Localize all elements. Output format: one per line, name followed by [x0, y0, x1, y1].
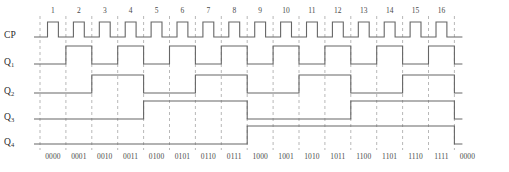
state-label: 1001: [278, 152, 293, 161]
clock-number: 6: [181, 6, 185, 15]
timing-diagram: CPQ1Q2Q3Q4123456789101112131415160000000…: [0, 0, 509, 172]
clock-number: 10: [282, 6, 290, 15]
clock-number: 9: [258, 6, 262, 15]
state-label: 0000: [45, 152, 60, 161]
waveform-q1: [34, 46, 462, 64]
state-label: 1101: [382, 152, 397, 161]
clock-number: 13: [360, 6, 368, 15]
signal-label-q2: Q2: [4, 86, 15, 96]
clock-number: 14: [386, 6, 394, 15]
clock-number: 5: [155, 6, 159, 15]
state-label: 0111: [227, 152, 242, 161]
signal-label-subscript: 2: [11, 90, 14, 97]
state-label: 0101: [175, 152, 190, 161]
clock-number: 12: [334, 6, 342, 15]
state-label: 1100: [356, 152, 371, 161]
clock-number: 11: [308, 6, 315, 15]
signal-label-cp: CP: [4, 30, 16, 40]
waveform-q4: [34, 126, 462, 144]
waveform-cp: [34, 22, 462, 37]
signal-label-subscript: 1: [11, 61, 14, 68]
state-label: 1111: [434, 152, 449, 161]
clock-number: 8: [232, 6, 236, 15]
state-label: 0001: [71, 152, 86, 161]
signal-label-text: Q: [4, 112, 11, 122]
state-label: 0010: [97, 152, 112, 161]
signal-label-q4: Q4: [4, 137, 15, 147]
waveform-q2: [34, 75, 462, 93]
state-label: 0110: [201, 152, 216, 161]
state-label: 0000: [460, 152, 475, 161]
clock-number: 7: [206, 6, 210, 15]
state-label: 1010: [304, 152, 319, 161]
clock-number: 2: [77, 6, 81, 15]
signal-label-text: CP: [4, 30, 16, 40]
signal-label-q1: Q1: [4, 57, 15, 67]
state-label: 1011: [330, 152, 345, 161]
signal-label-text: Q: [4, 57, 11, 67]
clock-number: 4: [129, 6, 133, 15]
waveform-q3: [34, 101, 462, 119]
clock-number: 15: [412, 6, 420, 15]
state-label: 1110: [408, 152, 423, 161]
signal-label-text: Q: [4, 86, 11, 96]
waveform-canvas: [0, 0, 509, 172]
clock-number: 1: [51, 6, 55, 15]
state-label: 0100: [149, 152, 164, 161]
signal-label-subscript: 3: [11, 116, 14, 123]
signal-label-q3: Q3: [4, 112, 15, 122]
signal-label-subscript: 4: [11, 141, 14, 148]
clock-number: 3: [103, 6, 107, 15]
clock-number: 16: [438, 6, 446, 15]
state-label: 1000: [252, 152, 267, 161]
state-label: 0011: [123, 152, 138, 161]
signal-label-text: Q: [4, 137, 11, 147]
